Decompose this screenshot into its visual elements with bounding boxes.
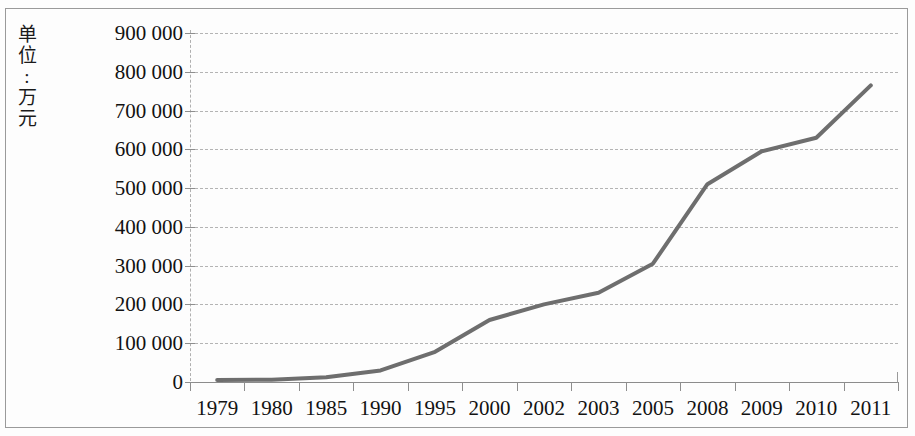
x-tick-label: 2000 <box>469 396 511 421</box>
y-axis-line <box>190 30 191 386</box>
plot-area <box>190 33 898 382</box>
x-tick-label: 2010 <box>795 396 837 421</box>
y-tick-mark <box>185 149 195 150</box>
x-tick-label: 1979 <box>196 396 238 421</box>
x-tick-mark <box>571 382 572 391</box>
x-tick-mark <box>408 382 409 391</box>
x-tick-mark <box>789 382 790 391</box>
x-tick-mark <box>844 382 845 391</box>
x-tick-mark <box>244 382 245 391</box>
y-tick-mark <box>185 111 195 112</box>
chart-figure: 单 位 : 万 元 0100 000200 000300 000400 0005… <box>0 0 915 436</box>
y-tick-label: 0 <box>63 370 183 395</box>
x-tick-label: 1985 <box>305 396 347 421</box>
gridline <box>190 304 898 305</box>
x-tick-label: 2005 <box>632 396 674 421</box>
gridline <box>190 72 898 73</box>
gridline <box>190 33 898 34</box>
y-tick-mark <box>185 33 195 34</box>
x-tick-mark <box>735 382 736 391</box>
y-axis-title-char-1: 单 <box>10 24 44 45</box>
gridline <box>190 343 898 344</box>
y-tick-label: 700 000 <box>63 98 183 123</box>
x-tick-mark <box>190 382 191 391</box>
x-tick-label: 1995 <box>414 396 456 421</box>
x-tick-label: 2011 <box>850 396 891 421</box>
x-tick-label: 2002 <box>523 396 565 421</box>
y-axis-tick-labels: 0100 000200 000300 000400 000500 000600 … <box>58 0 183 436</box>
x-tick-mark <box>680 382 681 391</box>
y-axis-title: 单 位 : 万 元 <box>10 24 44 129</box>
x-axis-line <box>190 382 899 383</box>
x-tick-label: 2003 <box>577 396 619 421</box>
y-tick-label: 900 000 <box>63 21 183 46</box>
x-tick-mark <box>353 382 354 391</box>
gridline <box>190 188 898 189</box>
gridline <box>190 227 898 228</box>
y-tick-mark <box>185 304 195 305</box>
y-tick-label: 500 000 <box>63 176 183 201</box>
y-tick-mark <box>185 343 195 344</box>
y-tick-label: 400 000 <box>63 214 183 239</box>
y-tick-label: 300 000 <box>63 253 183 278</box>
y-tick-mark <box>185 266 195 267</box>
x-tick-mark <box>626 382 627 391</box>
x-tick-label: 1990 <box>360 396 402 421</box>
y-axis-title-char-5: 元 <box>10 108 44 129</box>
y-tick-label: 100 000 <box>63 331 183 356</box>
x-tick-mark <box>299 382 300 391</box>
x-tick-label: 1980 <box>251 396 293 421</box>
gridline <box>190 266 898 267</box>
x-tick-mark <box>517 382 518 391</box>
gridline <box>190 111 898 112</box>
y-tick-label: 200 000 <box>63 292 183 317</box>
x-tick-mark <box>462 382 463 391</box>
gridline <box>190 149 898 150</box>
x-tick-label: 2008 <box>686 396 728 421</box>
y-axis-title-char-2: 位 <box>10 45 44 66</box>
x-tick-mark <box>898 382 899 391</box>
x-tick-label: 2009 <box>741 396 783 421</box>
y-tick-mark <box>185 72 195 73</box>
y-tick-mark <box>185 227 195 228</box>
y-tick-label: 600 000 <box>63 137 183 162</box>
y-tick-mark <box>185 188 195 189</box>
y-tick-label: 800 000 <box>63 59 183 84</box>
y-axis-title-char-3: : <box>10 66 44 87</box>
y-axis-title-char-4: 万 <box>10 87 44 108</box>
